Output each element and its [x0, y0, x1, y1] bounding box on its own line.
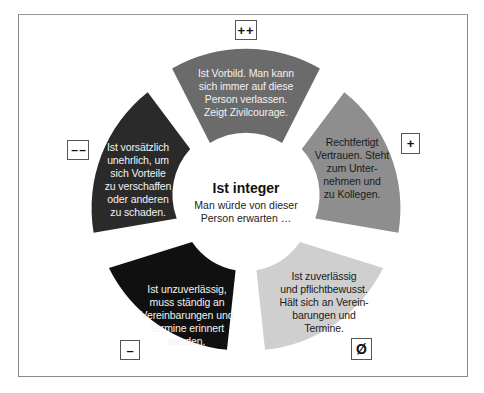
rating-double-minus-badge: – –: [67, 140, 89, 160]
text-line: Ist Vorbild. Man kann: [182, 67, 310, 80]
text-line: zu verschaffen: [100, 180, 176, 193]
text-line: werden.: [130, 335, 244, 348]
text-line: Termine.: [268, 322, 380, 335]
rating-double-plus-badge: ++: [235, 20, 257, 40]
text-line: Rechtfertigt: [304, 136, 400, 149]
text-line: Termine erinnert: [130, 322, 244, 335]
text-line: Hält sich an Verein-: [268, 296, 380, 309]
text-line: zu Kollegen.: [304, 188, 400, 201]
segment-bottom-left-text: Ist unzuverlässig, muss ständig an Verei…: [130, 283, 244, 348]
text-line: Vereinbarungen und: [130, 309, 244, 322]
text-line: Ist unzuverlässig,: [130, 283, 244, 296]
text-line: unehrlich, um: [100, 154, 176, 167]
text-line: Ist zuverlässig: [268, 270, 380, 283]
text-line: Zeigt Zivilcourage.: [182, 106, 310, 119]
text-line: Person verlassen.: [182, 93, 310, 106]
text-line: Ist vorsätzlich: [100, 141, 176, 154]
rating-minus-badge: –: [120, 340, 140, 360]
segment-top-text: Ist Vorbild. Man kann sich immer auf die…: [182, 67, 310, 119]
center-subtitle-line-1: Man würde von dieser: [180, 199, 312, 212]
rating-neutral-badge: Ø: [351, 338, 372, 360]
segment-bottom-right-text: Ist zuverlässig und pflichtbewusst. Hält…: [268, 270, 380, 335]
rating-plus-badge: +: [401, 133, 420, 154]
text-line: und pflichtbewusst.: [268, 283, 380, 296]
center-label: Ist integer Man würde von dieser Person …: [180, 180, 312, 225]
text-line: oder anderen: [100, 193, 176, 206]
text-line: zu schaden.: [100, 206, 176, 219]
text-line: muss ständig an: [130, 296, 244, 309]
text-line: sich immer auf diese: [182, 80, 310, 93]
text-line: zum Unter-: [304, 162, 400, 175]
segment-left-text: Ist vorsätzlich unehrlich, um sich Vorte…: [100, 141, 176, 219]
segment-right-text: Rechtfertigt Vertrauen. Steht zum Unter-…: [304, 136, 400, 201]
text-line: Vertrauen. Steht: [304, 149, 400, 162]
text-line: nehmen und: [304, 175, 400, 188]
center-subtitle-line-2: Person erwarten …: [180, 212, 312, 225]
center-title: Ist integer: [180, 180, 312, 196]
text-line: barungen und: [268, 309, 380, 322]
text-line: sich Vorteile: [100, 167, 176, 180]
